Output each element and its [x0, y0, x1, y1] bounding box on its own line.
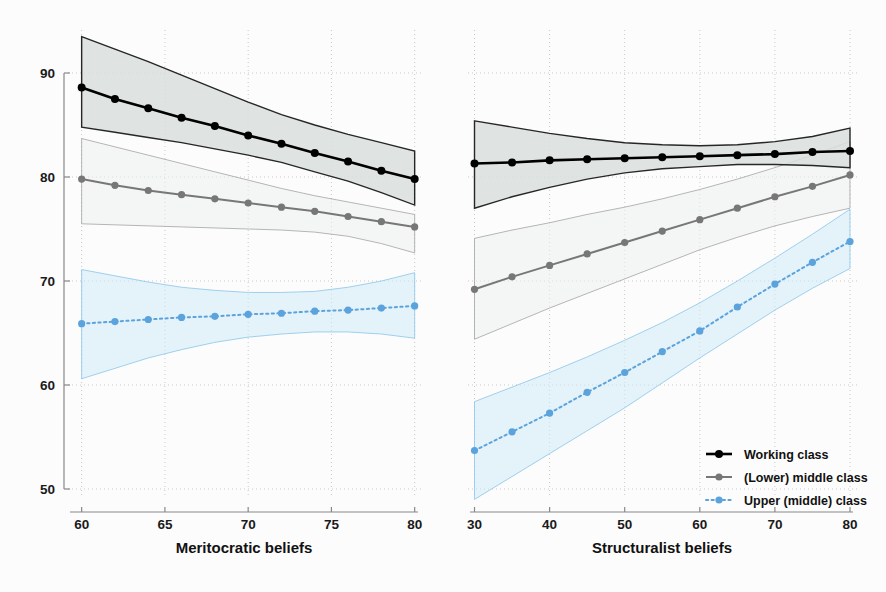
x-axis-tick-label: 80 — [842, 517, 857, 532]
data-point — [145, 316, 152, 323]
data-point — [378, 218, 385, 225]
data-point — [178, 114, 186, 122]
data-point — [734, 205, 741, 212]
data-point — [311, 308, 318, 315]
data-point — [809, 259, 816, 266]
legend-marker-1 — [715, 473, 722, 480]
data-point — [846, 147, 854, 155]
data-point — [278, 204, 285, 211]
data-point — [211, 195, 218, 202]
data-point — [734, 303, 741, 310]
data-point — [411, 175, 419, 183]
data-point — [145, 187, 152, 194]
data-point — [278, 310, 285, 317]
chart-figure: 50607080906065707580Meritocratic beliefs… — [0, 0, 886, 592]
data-point — [583, 155, 591, 163]
data-point — [771, 193, 778, 200]
x-axis-tick-label: 70 — [767, 517, 782, 532]
data-point — [311, 149, 319, 157]
data-point — [471, 447, 478, 454]
data-point — [771, 150, 779, 158]
data-point — [808, 148, 816, 156]
x-axis-tick-label: 60 — [692, 517, 707, 532]
data-point — [344, 307, 351, 314]
y-axis-tick-label: 80 — [40, 170, 55, 185]
x-axis-tick-label: 40 — [542, 517, 557, 532]
x-axis-title: Structuralist beliefs — [592, 539, 732, 556]
data-point — [546, 156, 554, 164]
x-axis-tick-label: 30 — [467, 517, 482, 532]
x-axis-tick-label: 75 — [324, 517, 340, 532]
data-point — [111, 182, 118, 189]
data-point — [846, 171, 853, 178]
panel-right — [468, 30, 857, 512]
x-axis-tick-label: 60 — [74, 517, 89, 532]
legend-label-2: Upper (middle) class — [744, 494, 867, 508]
data-point — [344, 157, 352, 165]
y-axis-tick-label: 60 — [40, 378, 55, 393]
data-point — [546, 262, 553, 269]
data-point — [178, 191, 185, 198]
data-point — [111, 95, 119, 103]
x-axis-tick-label: 50 — [617, 517, 632, 532]
data-point — [78, 320, 85, 327]
multi-panel-line-chart: 50607080906065707580Meritocratic beliefs… — [0, 0, 886, 592]
data-point — [508, 158, 516, 166]
data-point — [809, 183, 816, 190]
data-point — [846, 238, 853, 245]
legend-marker-2 — [715, 496, 722, 503]
data-point — [344, 213, 351, 220]
y-axis-tick-label: 50 — [40, 482, 55, 497]
data-point — [508, 273, 515, 280]
data-point — [621, 239, 628, 246]
data-point — [471, 286, 478, 293]
data-point — [696, 152, 704, 160]
data-point — [378, 304, 385, 311]
data-point — [211, 313, 218, 320]
data-point — [621, 154, 629, 162]
data-point — [771, 281, 778, 288]
data-point — [144, 104, 152, 112]
data-point — [411, 223, 418, 230]
data-point — [178, 314, 185, 321]
data-point — [659, 227, 666, 234]
x-axis-tick-label: 80 — [407, 517, 422, 532]
data-point — [696, 216, 703, 223]
data-point — [733, 151, 741, 159]
data-point — [584, 389, 591, 396]
data-point — [377, 167, 385, 175]
data-point — [78, 175, 85, 182]
data-point — [471, 159, 479, 167]
x-axis-tick-label: 70 — [241, 517, 256, 532]
data-point — [311, 208, 318, 215]
data-point — [411, 302, 418, 309]
y-axis-tick-label: 90 — [40, 66, 55, 81]
data-point — [621, 369, 628, 376]
data-point — [584, 250, 591, 257]
panel-left — [68, 30, 422, 512]
y-axis-tick-label: 70 — [40, 274, 55, 289]
data-point — [508, 428, 515, 435]
data-point — [111, 318, 118, 325]
data-point — [658, 153, 666, 161]
data-point — [245, 199, 252, 206]
legend-label-1: (Lower) middle class — [744, 471, 868, 485]
data-point — [696, 327, 703, 334]
x-axis-tick-label: 65 — [157, 517, 173, 532]
data-point — [78, 84, 86, 92]
legend-marker-0 — [715, 450, 723, 458]
data-point — [244, 131, 252, 139]
data-point — [211, 122, 219, 130]
legend-label-0: Working class — [744, 448, 829, 462]
chart-legend: Working class(Lower) middle classUpper (… — [706, 448, 868, 508]
x-axis-title: Meritocratic beliefs — [176, 539, 313, 556]
data-point — [659, 348, 666, 355]
data-point — [277, 140, 285, 148]
data-point — [245, 311, 252, 318]
data-point — [546, 409, 553, 416]
